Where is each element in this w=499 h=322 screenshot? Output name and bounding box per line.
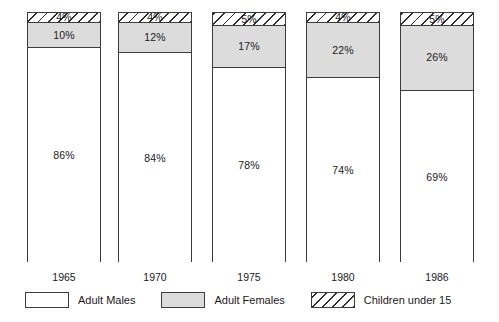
segment-children-under-15[interactable]: 5%: [213, 13, 285, 26]
stacked-bar[interactable]: 5% 26% 69%: [400, 12, 474, 262]
legend-label: Adult Males: [78, 295, 135, 306]
bar-group-1975[interactable]: 5% 17% 78%: [212, 12, 286, 262]
bar-group-1980[interactable]: 4% 22% 74%: [306, 12, 380, 262]
segment-value-label: 4%: [147, 13, 162, 23]
x-axis-tick-label-1975: 1975: [212, 272, 286, 283]
stacked-bar[interactable]: 4% 22% 74%: [306, 12, 380, 262]
stacked-bar[interactable]: 4% 12% 84%: [118, 12, 192, 262]
segment-adult-females[interactable]: 22%: [307, 23, 379, 78]
segment-value-label: 5%: [429, 14, 444, 25]
segment-adult-females[interactable]: 12%: [119, 23, 191, 53]
segment-adult-males[interactable]: 84%: [119, 53, 191, 263]
bar-group-1965[interactable]: 4% 10% 86%: [27, 12, 101, 262]
bar-group-1970[interactable]: 4% 12% 84%: [118, 12, 192, 262]
segment-children-under-15[interactable]: 4%: [28, 13, 100, 23]
x-axis-tick-label-1986: 1986: [400, 272, 474, 283]
legend-item-adult-females[interactable]: Adult Females: [161, 292, 284, 308]
segment-value-label: 69%: [426, 172, 447, 183]
legend-item-children-under-15[interactable]: Children under 15: [311, 292, 451, 308]
segment-value-label: 4%: [56, 13, 71, 23]
segment-children-under-15[interactable]: 4%: [307, 13, 379, 23]
segment-value-label: 4%: [335, 13, 350, 23]
legend-label: Adult Females: [214, 295, 284, 306]
stacked-bar[interactable]: 5% 17% 78%: [212, 12, 286, 262]
x-axis-tick-label-1970: 1970: [118, 272, 192, 283]
chart-legend: Adult Males Adult Females Children under…: [25, 290, 477, 310]
segment-value-label: 5%: [241, 14, 256, 25]
segment-value-label: 12%: [144, 32, 165, 43]
segment-adult-females[interactable]: 10%: [28, 23, 100, 48]
segment-children-under-15[interactable]: 5%: [401, 13, 473, 26]
stacked-bar-chart: 4% 10% 86% 1965 4% 12% 84%: [0, 0, 499, 322]
legend-swatch-hatched-icon: [311, 292, 355, 308]
segment-value-label: 22%: [332, 45, 353, 56]
x-axis-tick-label-1965: 1965: [27, 272, 101, 283]
segment-value-label: 86%: [53, 150, 74, 161]
segment-adult-females[interactable]: 26%: [401, 26, 473, 91]
legend-item-adult-males[interactable]: Adult Males: [25, 292, 135, 308]
segment-adult-males[interactable]: 78%: [213, 68, 285, 263]
segment-value-label: 84%: [144, 153, 165, 164]
segment-value-label: 17%: [238, 41, 259, 52]
stacked-bar[interactable]: 4% 10% 86%: [27, 12, 101, 262]
segment-adult-males[interactable]: 74%: [307, 78, 379, 263]
segment-value-label: 26%: [426, 52, 447, 63]
segment-value-label: 10%: [53, 30, 74, 41]
bar-group-1986[interactable]: 5% 26% 69%: [400, 12, 474, 262]
segment-value-label: 74%: [332, 165, 353, 176]
segment-value-label: 78%: [238, 160, 259, 171]
segment-adult-females[interactable]: 17%: [213, 26, 285, 69]
segment-adult-males[interactable]: 86%: [28, 48, 100, 263]
segment-children-under-15[interactable]: 4%: [119, 13, 191, 23]
legend-swatch-grey-icon: [161, 292, 205, 308]
plot-area: 4% 10% 86% 1965 4% 12% 84%: [0, 0, 499, 282]
legend-label: Children under 15: [364, 295, 451, 306]
x-axis-tick-label-1980: 1980: [306, 272, 380, 283]
segment-adult-males[interactable]: 69%: [401, 91, 473, 264]
legend-swatch-white-icon: [25, 292, 69, 308]
